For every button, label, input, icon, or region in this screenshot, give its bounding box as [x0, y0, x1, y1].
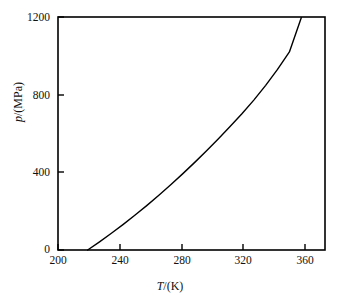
x-tick-label-240: 240 [95, 255, 145, 267]
y-axis-ticks [58, 17, 64, 250]
y-axis-title: p/(MPa) [12, 66, 24, 138]
y-tick-label-1200: 1200 [6, 12, 50, 24]
x-axis-unit: /(K) [163, 279, 183, 293]
x-tick-label-280: 280 [157, 255, 207, 267]
x-axis-title: T/(K) [110, 280, 230, 292]
data-curve-melting [88, 18, 302, 250]
x-tick-label-320: 320 [218, 255, 268, 267]
y-tick-label-0: 0 [6, 244, 50, 256]
y-tick-label-400: 400 [6, 167, 50, 179]
x-tick-label-360: 360 [280, 255, 330, 267]
x-tick-label-200: 200 [33, 255, 83, 267]
y-axis-unit: /(MPa) [11, 82, 25, 116]
plot-frame [58, 17, 325, 250]
y-axis-symbol: p [11, 116, 25, 122]
